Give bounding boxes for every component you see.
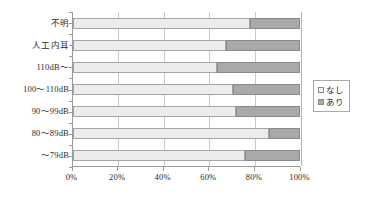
category-label: 不明: [1, 18, 69, 29]
bar-segment-nashi: [73, 128, 270, 139]
category-label: 人工内耳: [1, 40, 69, 51]
category-label: 80～89dB: [1, 128, 69, 139]
bar-segment-nashi: [73, 150, 246, 161]
bar-row: [73, 106, 300, 117]
bar-segment-nashi: [73, 62, 217, 73]
x-axis-label: 100%: [289, 172, 310, 182]
bar-segment-ari: [250, 18, 301, 29]
x-axis-tick: [254, 167, 255, 171]
bar-segment-nashi: [73, 18, 250, 29]
bar-row: [73, 128, 300, 139]
stacked-bar-chart: 不明人工内耳110dB～100～110dB90～99dB80～89dB～79dB…: [0, 0, 380, 203]
bar-row: [73, 150, 300, 161]
x-axis-labels: 0%20%40%60%80%100%: [0, 172, 380, 186]
gridline-100: [301, 12, 302, 166]
x-axis-ticks: [72, 167, 300, 171]
x-axis-tick: [117, 167, 118, 171]
category-label: 90～99dB: [1, 106, 69, 117]
x-axis-label: 0%: [66, 172, 78, 182]
bar-segment-ari: [217, 62, 301, 73]
x-axis-label: 80%: [246, 172, 262, 182]
category-label: 100～110dB: [1, 84, 69, 95]
legend-swatch-ari-icon: [318, 99, 324, 105]
bar-segment-ari: [269, 128, 300, 139]
x-axis-tick: [208, 167, 209, 171]
bar-row: [73, 18, 300, 29]
bar-segment-ari: [245, 150, 300, 161]
bar-segment-nashi: [73, 40, 226, 51]
x-axis-tick: [72, 167, 73, 171]
legend-label-ari: あり: [326, 96, 344, 108]
category-label: 110dB～: [1, 62, 69, 73]
bar-row: [73, 62, 300, 73]
category-label: ～79dB: [1, 150, 69, 161]
legend-label-nashi: なし: [326, 84, 344, 96]
bar-segment-ari: [233, 84, 300, 95]
chart-legend: なし あり: [313, 80, 350, 112]
x-axis-tick: [163, 167, 164, 171]
bar-segment-nashi: [73, 84, 234, 95]
legend-item-ari: あり: [318, 96, 344, 108]
y-axis-labels: 不明人工内耳110dB～100～110dB90～99dB80～89dB～79dB: [0, 12, 69, 167]
bar-row: [73, 84, 300, 95]
x-axis-label: 40%: [155, 172, 171, 182]
x-axis-tick: [300, 167, 301, 171]
plot-area: [72, 12, 300, 167]
bar-row: [73, 40, 300, 51]
bar-segment-nashi: [73, 106, 236, 117]
legend-item-nashi: なし: [318, 84, 344, 96]
legend-swatch-nashi-icon: [318, 87, 324, 93]
x-axis-label: 20%: [109, 172, 125, 182]
x-axis-label: 60%: [200, 172, 216, 182]
bar-segment-ari: [226, 40, 301, 51]
bar-segment-ari: [236, 106, 301, 117]
